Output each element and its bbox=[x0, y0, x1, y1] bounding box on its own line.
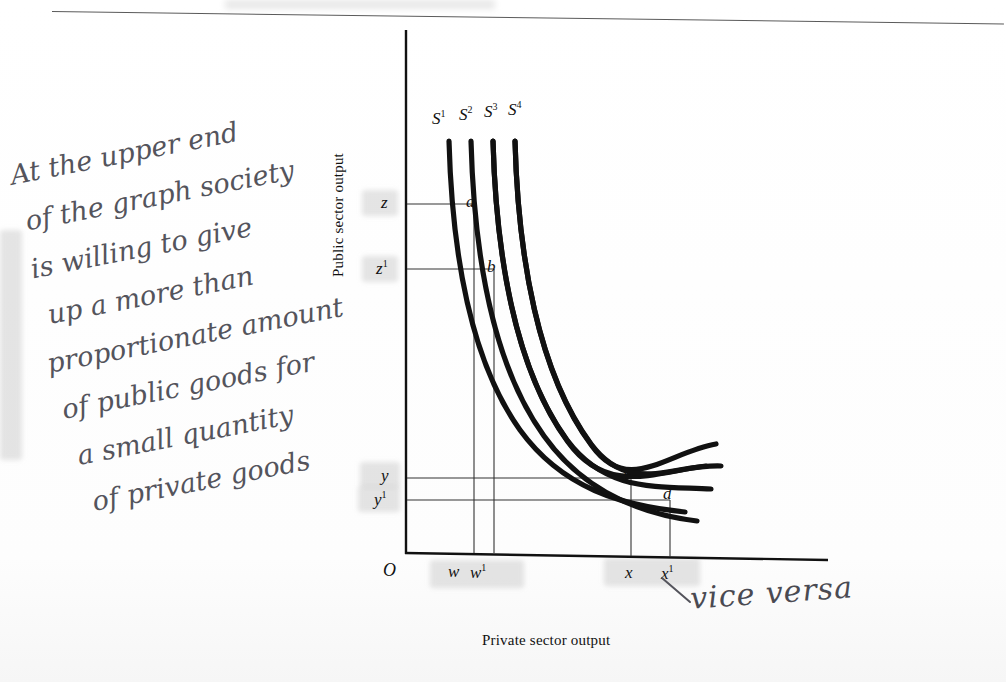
x-axis-title: Private sector output bbox=[482, 632, 610, 649]
curve-label-S2: S2 bbox=[459, 104, 473, 125]
y-tick-y1: y1 bbox=[374, 489, 387, 510]
point-label-c: c bbox=[624, 463, 632, 483]
curve-S4-tail bbox=[515, 141, 721, 474]
curve-label-S3: S3 bbox=[484, 101, 498, 122]
curve-label-S4: S4 bbox=[508, 99, 522, 120]
point-label-a: a bbox=[466, 192, 475, 212]
origin-label: O bbox=[383, 560, 396, 581]
curve-S4 bbox=[515, 141, 716, 470]
curve-S1 bbox=[449, 141, 685, 512]
point-label-d: d bbox=[663, 484, 672, 504]
point-label-b: b bbox=[487, 257, 496, 277]
x-tick-w: w bbox=[448, 562, 459, 582]
curve-label-S1: S1 bbox=[432, 108, 446, 129]
curve-S3 bbox=[493, 141, 706, 477]
x-tick-w1: w1 bbox=[470, 562, 486, 583]
y-tick-z: z bbox=[381, 193, 388, 213]
y-tick-y: y bbox=[381, 466, 389, 486]
x-axis bbox=[405, 553, 828, 560]
curve-group bbox=[449, 141, 716, 521]
x-tick-x: x bbox=[625, 563, 633, 583]
scanned-page: S1 S2 S3 S4 a b c d z z1 y y1 O w w1 x x… bbox=[0, 0, 1006, 682]
y-tick-z1: z1 bbox=[376, 258, 388, 279]
